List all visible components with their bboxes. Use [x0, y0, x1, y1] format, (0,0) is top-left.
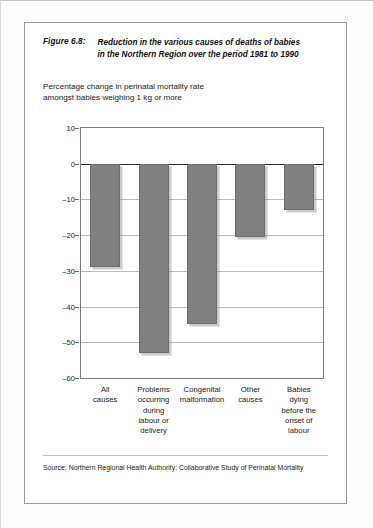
chart-subtitle-line-1: Percentage change in perinatal mortality…: [43, 81, 204, 92]
y-axis-tick-mark: [75, 164, 79, 165]
figure-title-block: Figure 6.8: Reduction in the various cau…: [43, 37, 335, 60]
figure-frame: Figure 6.8: Reduction in the various cau…: [24, 22, 347, 504]
figure-title-line-2: in the Northern Region over the period 1…: [98, 49, 300, 61]
y-axis-tick-label: 0: [42, 159, 75, 168]
y-axis-tick-label: –40: [42, 302, 75, 311]
bar: [90, 164, 120, 268]
category-label-line: during: [123, 406, 183, 416]
y-axis-tick-label: –60: [42, 374, 75, 383]
y-axis-tick-mark: [75, 199, 79, 200]
y-axis-tick-label: –10: [42, 195, 75, 204]
category-label-line: Babies: [269, 385, 329, 395]
category-label-line: before the: [269, 406, 329, 416]
y-axis-tick-label: 10: [42, 124, 75, 133]
y-axis-tick-mark: [75, 271, 79, 272]
figure-page: Figure 6.8: Reduction in the various cau…: [0, 0, 373, 528]
source-divider: [43, 455, 328, 456]
category-label-line: labour: [269, 426, 329, 436]
y-axis-tick-label: –30: [42, 266, 75, 275]
figure-title: Reduction in the various causes of death…: [98, 37, 300, 60]
category-label-line: labour or: [123, 416, 183, 426]
chart-subtitle: Percentage change in perinatal mortality…: [43, 81, 204, 104]
bar: [187, 164, 217, 325]
figure-title-line-1: Reduction in the various causes of death…: [98, 37, 300, 49]
bar: [235, 164, 265, 237]
y-axis-tick-mark: [75, 307, 79, 308]
y-axis: 100–10–20–30–40–50–60: [36, 127, 75, 379]
figure-number-label: Figure 6.8:: [43, 37, 86, 60]
bar-series: [81, 128, 323, 378]
bar: [284, 164, 314, 210]
y-axis-tick-mark: [75, 342, 79, 343]
y-axis-tick-mark: [75, 128, 79, 129]
bar: [139, 164, 169, 353]
bar-chart: 100–10–20–30–40–50–60 AllcausesProblemso…: [36, 119, 336, 419]
y-axis-tick-label: –50: [42, 338, 75, 347]
category-label-line: delivery: [123, 426, 183, 436]
chart-subtitle-line-2: amongst babies weighing 1 kg or more: [43, 92, 204, 103]
source-note: Source: Northern Regional Health Authori…: [43, 464, 303, 471]
category-label-line: onset of: [269, 416, 329, 426]
y-axis-tick-mark: [75, 378, 79, 379]
x-axis-category-label: Babiesdyingbefore theonset oflabour: [269, 385, 329, 436]
y-axis-tick-mark: [75, 235, 79, 236]
y-axis-tick-label: –20: [42, 231, 75, 240]
category-label-line: dying: [269, 395, 329, 405]
